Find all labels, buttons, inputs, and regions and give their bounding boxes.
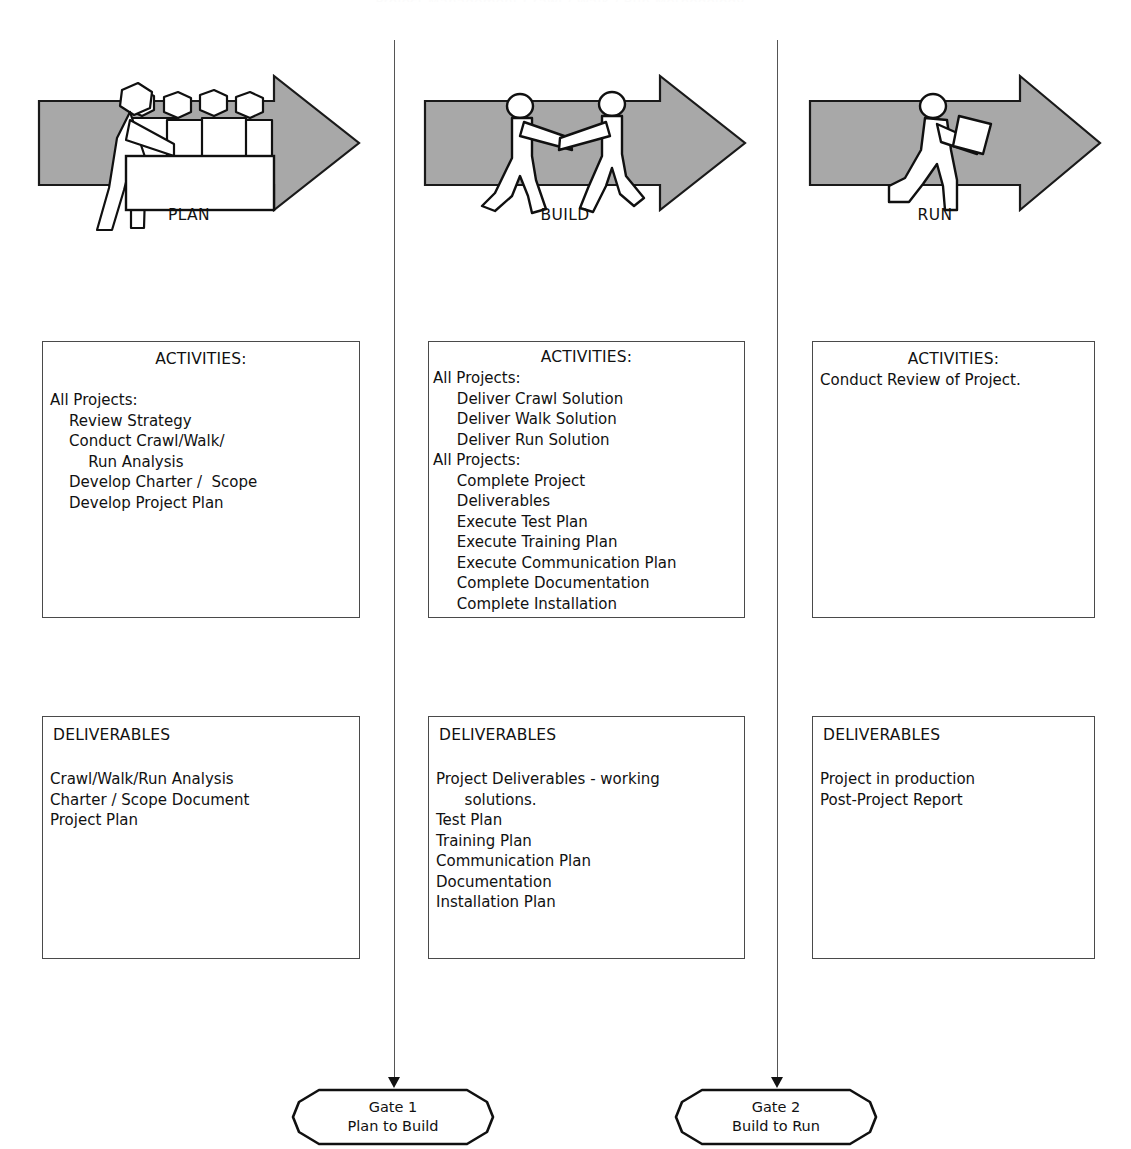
deliverables-box-build: DELIVERABLES Project Deliverables - work… [428, 716, 745, 959]
gate-label-group: Gate 2 Build to Run [674, 1088, 878, 1146]
gate-1[interactable]: Gate 1 Plan to Build [291, 1088, 495, 1146]
divider-line-plan-build [394, 40, 395, 1080]
deliverables-heading: DELIVERABLES [813, 726, 1094, 744]
carried-box-shape [953, 116, 991, 154]
deliverables-list: Project Deliverables - working solutions… [436, 769, 744, 913]
gate-name: Gate 1 [369, 1098, 418, 1117]
phase-label-plan: PLAN [24, 206, 354, 224]
activities-list: Conduct Review of Project. [820, 370, 1094, 391]
gate-transition: Plan to Build [347, 1117, 438, 1136]
phase-graphic-plan: PLAN [34, 68, 364, 238]
activities-box-run: ACTIVITIES: Conduct Review of Project. [812, 341, 1095, 618]
activities-box-build: ACTIVITIES: All Projects: Deliver Crawl … [428, 341, 745, 618]
phase-label-run: RUN [785, 206, 1085, 224]
meeting-table-shape [126, 156, 274, 210]
deliverables-heading: DELIVERABLES [429, 726, 744, 744]
activities-heading: ACTIVITIES: [43, 350, 359, 368]
phase-graphic-build: BUILD [420, 68, 750, 238]
cropped-title: Project Management Crawl / Walk / Run Me… [280, 0, 840, 2]
deliverables-list: Crawl/Walk/Run Analysis Charter / Scope … [50, 769, 359, 831]
phase-label-build: BUILD [400, 206, 730, 224]
activities-heading: ACTIVITIES: [813, 350, 1094, 368]
divider-arrowhead-2 [771, 1077, 783, 1088]
gate-transition: Build to Run [732, 1117, 820, 1136]
gate-name: Gate 2 [752, 1098, 801, 1117]
activities-heading: ACTIVITIES: [429, 348, 744, 366]
diagram-canvas: Project Management Crawl / Walk / Run Me… [0, 0, 1131, 1149]
deliverables-box-run: DELIVERABLES Project in production Post-… [812, 716, 1095, 959]
deliverables-heading: DELIVERABLES [43, 726, 359, 744]
divider-line-build-run [777, 40, 778, 1080]
gate-label-group: Gate 1 Plan to Build [291, 1088, 495, 1146]
activities-box-plan: ACTIVITIES: All Projects: Review Strateg… [42, 341, 360, 618]
deliverables-list: Project in production Post-Project Repor… [820, 769, 1094, 810]
gate-2[interactable]: Gate 2 Build to Run [674, 1088, 878, 1146]
activities-list: All Projects: Deliver Crawl Solution Del… [433, 368, 744, 614]
deliverables-box-plan: DELIVERABLES Crawl/Walk/Run Analysis Cha… [42, 716, 360, 959]
divider-arrowhead-1 [388, 1077, 400, 1088]
phase-graphic-run: RUN [805, 68, 1105, 238]
activities-list: All Projects: Review Strategy Conduct Cr… [50, 390, 359, 513]
